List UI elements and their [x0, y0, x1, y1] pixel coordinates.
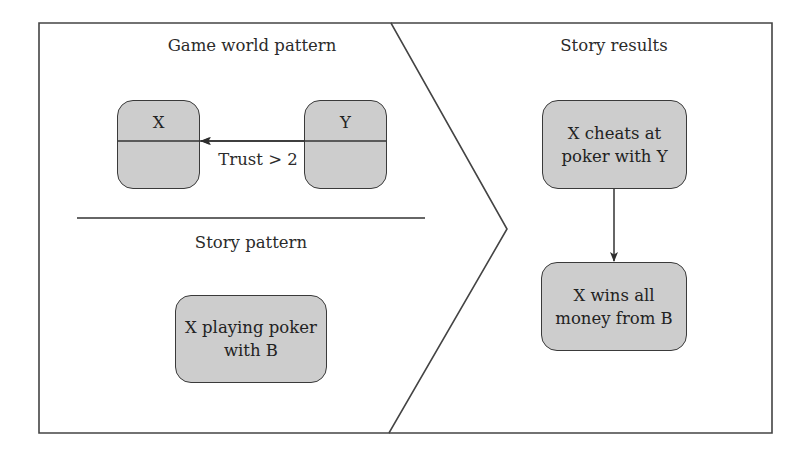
node-wins-line2: money from B [555, 309, 672, 328]
node-playing-poker-line2: with B [224, 341, 278, 360]
node-playing-poker: X playing poker with B [175, 295, 327, 383]
right-panel-outline [389, 23, 772, 433]
node-playing-poker-line1: X playing poker [185, 318, 317, 337]
story-pattern-title: Story pattern [195, 233, 307, 253]
node-cheats-at-poker: X cheats at poker with Y [542, 100, 687, 189]
diagram: Game world pattern Story pattern Story r… [0, 0, 806, 461]
story-results-title: Story results [560, 36, 667, 56]
trust-edge-label: Trust > 2 [218, 150, 297, 170]
node-wins-all-money: X wins all money from B [541, 262, 687, 351]
diagram-frame [0, 0, 806, 461]
node-y: Y [304, 100, 387, 189]
node-wins-line1: X wins all [573, 286, 654, 305]
node-x: X [117, 100, 200, 189]
node-cheats-line1: X cheats at [568, 124, 661, 143]
node-y-label: Y [340, 111, 351, 134]
node-cheats-line2: poker with Y [561, 147, 667, 166]
game-world-pattern-title: Game world pattern [168, 36, 337, 56]
node-x-label: X [153, 111, 165, 134]
